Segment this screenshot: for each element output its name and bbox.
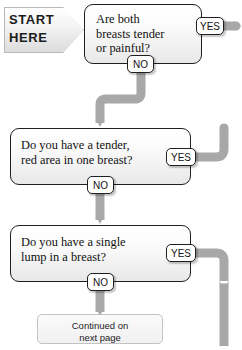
arrowhead-down-q3-yes-fill (220, 284, 228, 293)
start-here-line1: START (9, 11, 67, 29)
q3-no-badge[interactable]: NO (87, 273, 114, 291)
start-here-label: START HERE (9, 11, 67, 47)
arrowhead-right-q1 (233, 22, 241, 31)
arrowhead-down-q3-yes (220, 283, 229, 292)
connector-q2-yes (196, 128, 224, 157)
arrowhead-left-q1 (107, 95, 116, 104)
start-here-line2: HERE (9, 29, 67, 47)
arrowhead-up-q2 (220, 124, 229, 133)
arrowhead-down-q2 (96, 215, 105, 224)
question-1-text: Are both breasts tender or painful? (96, 12, 200, 56)
continued-text: Continued on next page (37, 320, 163, 344)
arrow-notch (220, 281, 229, 290)
connector-q3-yes (196, 253, 224, 346)
question-3-text: Do you have a single lump in a breast? (21, 235, 181, 264)
q1-no-badge[interactable]: NO (127, 55, 154, 73)
q2-no-badge[interactable]: NO (87, 176, 114, 194)
q2-yes-badge[interactable]: YES (166, 148, 196, 166)
question-2-text: Do you have a tender, red area in one br… (21, 138, 181, 167)
q3-yes-badge[interactable]: YES (166, 244, 196, 262)
flowchart-canvas: START HERE Are both breasts tender or pa… (0, 0, 242, 350)
arrowhead-down-q1 (96, 118, 105, 127)
q1-yes-badge[interactable]: YES (196, 17, 224, 35)
